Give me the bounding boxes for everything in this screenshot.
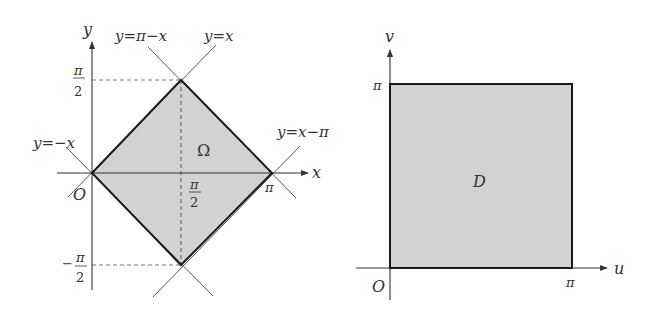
origin-label-uv: O [372, 277, 385, 296]
label-y-eq-x-minus-pi: y=x−π [276, 123, 330, 141]
svg-text:π: π [189, 177, 199, 192]
figure: y x O Ω π π 2 π 2 − π 2 y=π−x y=x y=−x y… [0, 0, 653, 314]
label-y-eq-neg-x: y=−x [32, 134, 76, 152]
tick-pi-label: π [264, 180, 274, 195]
x-axis-label: x [312, 163, 321, 182]
svg-text:π: π [73, 63, 83, 78]
region-omega-label: Ω [197, 141, 210, 160]
left-panel: y x O Ω π π 2 π 2 − π 2 y=π−x y=x y=−x y… [32, 20, 330, 297]
svg-text:2: 2 [74, 84, 82, 99]
y-axis-label: y [82, 20, 93, 39]
right-panel: v u O D π π [356, 27, 624, 300]
tick-neg-pi-half-y: − π 2 [62, 250, 87, 285]
svg-text:π: π [75, 250, 85, 265]
origin-label: O [73, 185, 86, 204]
v-axis-label: v [385, 27, 394, 46]
region-d-label: D [472, 172, 486, 191]
label-y-eq-x: y=x [203, 27, 234, 45]
tick-pi-half-y: π 2 [73, 63, 85, 99]
svg-text:2: 2 [190, 195, 198, 210]
tick-v-pi-label: π [372, 78, 382, 93]
u-axis-label: u [614, 259, 624, 278]
svg-text:2: 2 [76, 270, 84, 285]
label-y-eq-pi-minus-x: y=π−x [114, 27, 167, 45]
svg-text:−: − [62, 256, 73, 271]
tick-u-pi-label: π [565, 275, 575, 290]
